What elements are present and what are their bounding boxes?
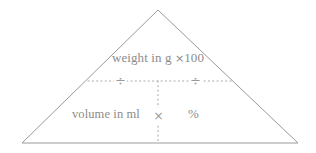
numerator-text: weight in g [112,50,175,65]
numerator-factor: 100 [184,50,204,65]
triangle-graphic [0,0,316,153]
denominator-label: volume in ml [72,108,140,121]
percent-result-label: % [188,107,199,120]
multiply-center-icon: × [152,108,165,124]
divide-left-icon: ÷ [114,74,127,87]
numerator-multiply-icon: × [175,52,184,65]
formula-triangle-diagram: weight in g ×100 ÷ ÷ volume in ml × % [0,0,316,153]
numerator-label: weight in g ×100 [0,51,316,64]
divide-right-icon: ÷ [189,74,202,87]
